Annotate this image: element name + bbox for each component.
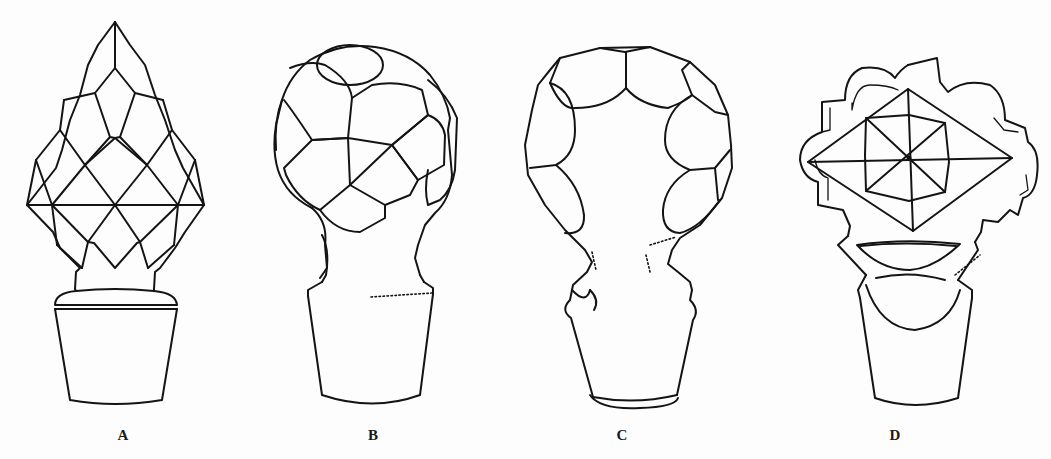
illustration-plate: A B C D [0, 0, 1051, 459]
label-a: A [108, 427, 138, 444]
stopper-d-drawing [0, 0, 1051, 459]
label-b: B [358, 427, 388, 444]
label-d: D [880, 427, 910, 444]
label-c: C [607, 427, 637, 444]
stopper-d [800, 58, 1038, 405]
